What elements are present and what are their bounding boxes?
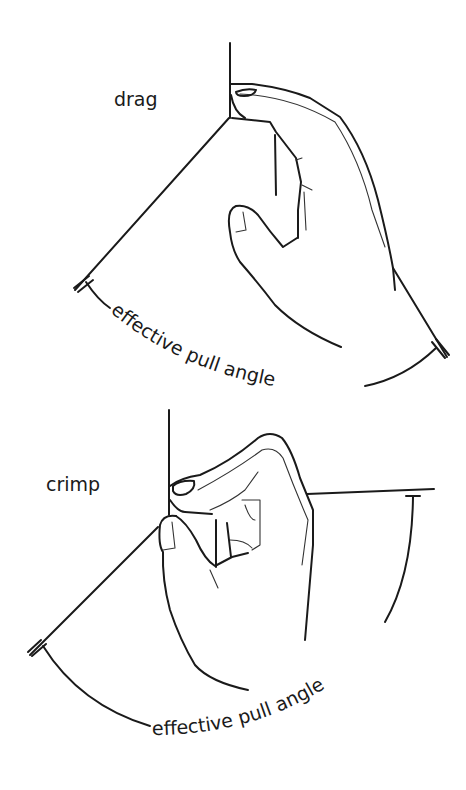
finger-contour [240,94,385,247]
grip-diagram: drag effective pull angle [0,0,466,790]
crimp-title: crimp [46,473,100,495]
drag-title: drag [114,88,158,110]
crimp-panel: crimp effective pull angle [28,410,434,739]
crimp-hand-drawing [159,434,313,690]
thumbnail [163,522,175,550]
angle-arc-right [385,497,413,622]
left-end-cap [74,276,93,292]
back-of-hand [231,84,395,290]
fingertip-pad [231,95,245,118]
thumbnail [236,212,246,232]
pull-direction-line [30,527,158,655]
knuckle-creases [210,472,260,550]
thumb [159,516,248,690]
palm-crease [210,570,218,588]
fingernail [173,481,194,495]
forearm-line [307,489,434,494]
middle-finger-lines [216,520,231,567]
inner-finger-line [275,135,276,195]
angle-arc-left [86,282,110,308]
drag-hand-drawing [229,84,447,357]
drag-panel: drag effective pull angle [74,43,449,390]
fingernail [236,89,256,96]
angle-arc-right [365,348,436,386]
angle-arc-left [43,646,150,726]
pull-direction-line [75,118,229,290]
finger-pad [170,500,212,514]
finger-contour [198,449,308,565]
crimp-angle-label: effective pull angle [152,672,328,739]
finger-knuckles [232,118,301,238]
drag-angle-label: effective pull angle [107,298,277,390]
